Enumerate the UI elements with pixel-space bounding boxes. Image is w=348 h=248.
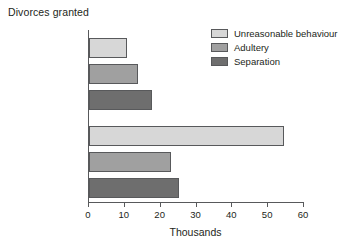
bar-chart: Divorces granted 0102030405060 To husban… (0, 0, 348, 248)
chart-legend: Unreasonable behaviourAdulterySeparation (211, 27, 338, 69)
bar (89, 152, 171, 172)
x-tick-mark (124, 202, 125, 207)
x-tick-label: 20 (145, 209, 175, 220)
x-tick-label: 10 (109, 209, 139, 220)
x-tick-mark (267, 202, 268, 207)
bar (89, 64, 138, 84)
legend-label: Separation (234, 56, 280, 67)
x-tick-label: 60 (288, 209, 318, 220)
x-tick-label: 30 (181, 209, 211, 220)
legend-label: Adultery (234, 42, 269, 53)
x-tick-mark (303, 202, 304, 207)
x-tick-mark (196, 202, 197, 207)
x-tick-label: 40 (216, 209, 246, 220)
legend-item: Adultery (211, 41, 338, 54)
x-tick-mark (160, 202, 161, 207)
chart-title: Divorces granted (8, 6, 89, 18)
bar (89, 178, 179, 198)
legend-label: Unreasonable behaviour (234, 28, 338, 39)
bar (89, 126, 284, 146)
x-tick-label: 0 (73, 209, 103, 220)
legend-swatch-icon (211, 57, 228, 66)
x-axis-title: Thousands (88, 226, 303, 238)
legend-swatch-icon (211, 29, 228, 38)
x-tick-mark (231, 202, 232, 207)
x-tick-label: 50 (252, 209, 282, 220)
legend-item: Unreasonable behaviour (211, 27, 338, 40)
legend-swatch-icon (211, 43, 228, 52)
bar (89, 90, 152, 110)
legend-item: Separation (211, 55, 338, 68)
x-tick-mark (88, 202, 89, 207)
bar (89, 38, 127, 58)
